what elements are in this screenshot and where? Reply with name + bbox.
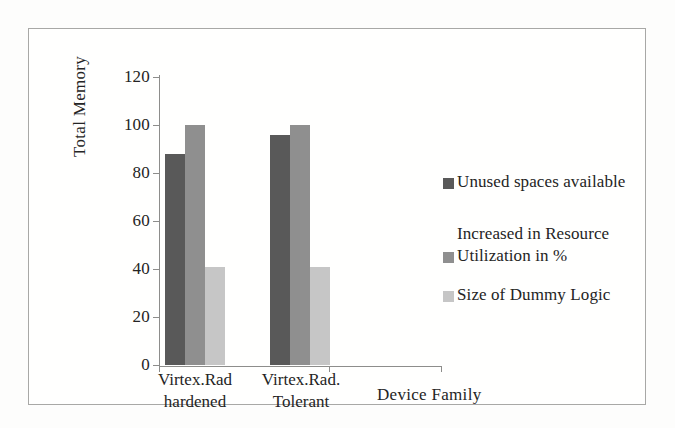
x-axis-title: Device Family bbox=[377, 385, 481, 405]
plot-area: 020406080100120 bbox=[159, 77, 441, 365]
y-tick-label: 80 bbox=[133, 163, 150, 183]
y-tick-mark bbox=[153, 77, 159, 78]
x-tick-mark bbox=[441, 366, 442, 372]
chart-figure: 020406080100120 Virtex.RadhardenedVirtex… bbox=[0, 0, 675, 428]
x-category-label-line: Tolerant bbox=[241, 391, 361, 413]
y-tick-mark bbox=[153, 317, 159, 318]
bar bbox=[270, 135, 290, 365]
bar bbox=[165, 154, 185, 365]
legend-swatch-icon bbox=[443, 252, 454, 263]
legend-swatch-icon bbox=[443, 178, 454, 189]
legend-swatch-icon bbox=[443, 291, 454, 302]
legend-item[interactable]: Unused spaces available bbox=[443, 171, 625, 193]
bar bbox=[290, 125, 310, 365]
x-category-label: Virtex.Rad.Tolerant bbox=[241, 369, 361, 413]
y-tick-label: 100 bbox=[124, 115, 150, 135]
y-tick-label: 40 bbox=[133, 259, 150, 279]
x-category-label-line: Virtex.Rad. bbox=[262, 370, 340, 389]
bar bbox=[310, 267, 330, 365]
y-tick-label: 120 bbox=[124, 67, 150, 87]
y-tick-label: 60 bbox=[133, 211, 150, 231]
legend-item[interactable]: Size of Dummy Logic bbox=[443, 284, 610, 306]
bar-group bbox=[270, 77, 330, 365]
y-tick-mark bbox=[153, 269, 159, 270]
bar-group bbox=[165, 77, 225, 365]
y-tick-label: 20 bbox=[133, 307, 150, 327]
bar bbox=[185, 125, 205, 365]
y-axis-title: Total Memory bbox=[70, 0, 90, 157]
x-category-label-line: hardened bbox=[135, 391, 255, 413]
bar bbox=[205, 267, 225, 365]
y-tick-mark bbox=[153, 125, 159, 126]
legend-label: Unused spaces available bbox=[457, 171, 625, 193]
legend-label: Size of Dummy Logic bbox=[457, 284, 610, 306]
x-axis-line bbox=[159, 366, 442, 367]
legend-item[interactable]: Increased in Resource Utilization in % bbox=[443, 223, 609, 267]
legend-label: Increased in Resource Utilization in % bbox=[457, 223, 609, 267]
y-tick-mark bbox=[153, 221, 159, 222]
x-category-label-line: Virtex.Rad bbox=[158, 370, 232, 389]
y-tick-mark bbox=[153, 173, 159, 174]
x-category-label: Virtex.Radhardened bbox=[135, 369, 255, 413]
figure-border: 020406080100120 Virtex.RadhardenedVirtex… bbox=[28, 28, 646, 405]
